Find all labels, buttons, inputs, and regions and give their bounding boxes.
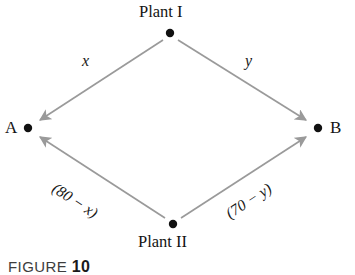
figure-caption: FIGURE 10 bbox=[8, 258, 90, 275]
node-dot-dest-a bbox=[24, 124, 32, 132]
figure-container: Plant I Plant II A B x y (80 − x) (70 − … bbox=[0, 0, 355, 275]
figure-caption-number: 10 bbox=[72, 258, 91, 275]
edge-plant2-to-a bbox=[40, 137, 165, 218]
node-label-plant-one: Plant I bbox=[139, 4, 183, 21]
node-label-dest-a: A bbox=[5, 119, 17, 136]
node-dot-dest-b bbox=[314, 124, 322, 132]
node-label-plant-two: Plant II bbox=[138, 234, 187, 251]
node-dot-plant-two bbox=[169, 220, 177, 228]
edge-label-y: y bbox=[245, 53, 252, 69]
figure-caption-word: FIGURE bbox=[8, 258, 67, 275]
edge-plant1-to-a bbox=[40, 40, 163, 120]
edge-label-x: x bbox=[82, 53, 89, 69]
node-dot-plant-one bbox=[166, 29, 174, 37]
edge-plant1-to-b bbox=[178, 40, 306, 120]
node-label-dest-b: B bbox=[330, 119, 341, 136]
